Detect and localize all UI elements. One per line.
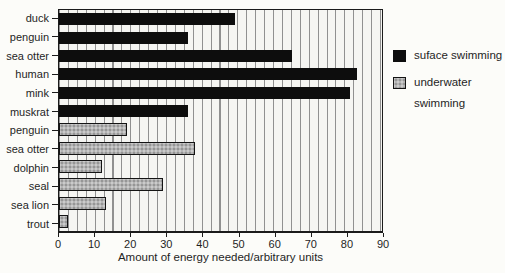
y-axis-labels: duckpenguinsea otterhumanminkmuskratpeng… bbox=[0, 9, 58, 233]
bar-mink-surface bbox=[59, 87, 350, 99]
bar-row bbox=[59, 13, 382, 26]
x-tick bbox=[275, 233, 276, 237]
bar-row bbox=[59, 178, 382, 191]
y-label: sea otter bbox=[6, 50, 49, 62]
bar-row bbox=[59, 142, 382, 155]
legend-item-underwater: underwaterswimming bbox=[393, 76, 502, 114]
legend: suface swimmingunderwaterswimming bbox=[393, 49, 502, 124]
bar-penguin-surface bbox=[59, 32, 188, 44]
x-tick-label: 90 bbox=[377, 238, 389, 250]
x-tick bbox=[202, 233, 203, 237]
y-label-row: human bbox=[0, 68, 58, 81]
y-label: muskrat bbox=[10, 106, 49, 118]
plot-area bbox=[58, 9, 383, 233]
legend-item-surface: suface swimming bbox=[393, 49, 502, 66]
x-tick bbox=[130, 233, 131, 237]
y-label-row: sea lion bbox=[0, 198, 58, 211]
bar-sea-otter-underwater bbox=[59, 142, 195, 155]
plot-rows bbox=[59, 10, 382, 231]
legend-label-line: suface swimming bbox=[414, 45, 502, 66]
legend-label-underwater: underwaterswimming bbox=[414, 72, 472, 114]
legend-swatch-surface bbox=[393, 50, 406, 62]
y-label: sea otter bbox=[6, 143, 49, 155]
bar-duck-surface bbox=[59, 13, 235, 25]
y-label-row: dolphin bbox=[0, 161, 58, 174]
y-label: mink bbox=[26, 87, 49, 99]
bar-row bbox=[59, 123, 382, 136]
x-tick bbox=[383, 233, 384, 237]
bar-row bbox=[59, 105, 382, 118]
x-tick-label: 30 bbox=[160, 238, 172, 250]
bar-row bbox=[59, 50, 382, 63]
y-label: penguin bbox=[10, 124, 49, 136]
x-tick-label: 0 bbox=[55, 238, 61, 250]
x-axis-title: Amount of energy needed/arbitrary units bbox=[58, 251, 383, 263]
y-label-row: seal bbox=[0, 180, 58, 193]
bar-sea-otter-surface bbox=[59, 50, 292, 62]
y-label-row: mink bbox=[0, 86, 58, 99]
x-tick bbox=[94, 233, 95, 237]
y-label-row: muskrat bbox=[0, 105, 58, 118]
x-tick bbox=[58, 233, 59, 237]
x-tick-label: 50 bbox=[232, 238, 244, 250]
legend-label-surface: suface swimming bbox=[414, 45, 502, 66]
x-tick-label: 70 bbox=[305, 238, 317, 250]
y-label: duck bbox=[26, 12, 49, 24]
bar-human-surface bbox=[59, 68, 357, 80]
bar-seal-underwater bbox=[59, 178, 163, 191]
x-tick bbox=[311, 233, 312, 237]
bar-row bbox=[59, 160, 382, 173]
bar-penguin-underwater bbox=[59, 123, 127, 136]
y-label-row: penguin bbox=[0, 30, 58, 43]
legend-swatch-underwater bbox=[393, 77, 406, 89]
y-label: dolphin bbox=[14, 162, 49, 174]
legend-label-line: swimming bbox=[414, 93, 472, 114]
y-label-row: sea otter bbox=[0, 142, 58, 155]
y-label-row: duck bbox=[0, 12, 58, 25]
bar-dolphin-underwater bbox=[59, 160, 102, 173]
y-label-row: trout bbox=[0, 217, 58, 230]
x-tick-label: 80 bbox=[341, 238, 353, 250]
energy-bar-chart-figure: duckpenguinsea otterhumanminkmuskratpeng… bbox=[0, 0, 505, 273]
x-tick-label: 60 bbox=[269, 238, 281, 250]
y-label: penguin bbox=[10, 31, 49, 43]
bar-row bbox=[59, 197, 382, 210]
y-label: trout bbox=[27, 218, 49, 230]
y-label-row: penguin bbox=[0, 124, 58, 137]
x-tick bbox=[347, 233, 348, 237]
x-tick bbox=[166, 233, 167, 237]
bar-trout-underwater bbox=[59, 215, 68, 228]
y-label: human bbox=[15, 68, 49, 80]
x-tick bbox=[239, 233, 240, 237]
x-tick-label: 20 bbox=[124, 238, 136, 250]
bar-row bbox=[59, 31, 382, 44]
legend-label-line: underwater bbox=[414, 72, 472, 93]
bar-row bbox=[59, 68, 382, 81]
x-tick-label: 40 bbox=[196, 238, 208, 250]
y-label: sea lion bbox=[11, 199, 49, 211]
y-label: seal bbox=[29, 180, 49, 192]
bar-muskrat-surface bbox=[59, 105, 188, 117]
bar-row bbox=[59, 215, 382, 228]
y-label-row: sea otter bbox=[0, 49, 58, 62]
bar-row bbox=[59, 86, 382, 99]
x-tick-label: 10 bbox=[88, 238, 100, 250]
bar-sea-lion-underwater bbox=[59, 197, 106, 210]
